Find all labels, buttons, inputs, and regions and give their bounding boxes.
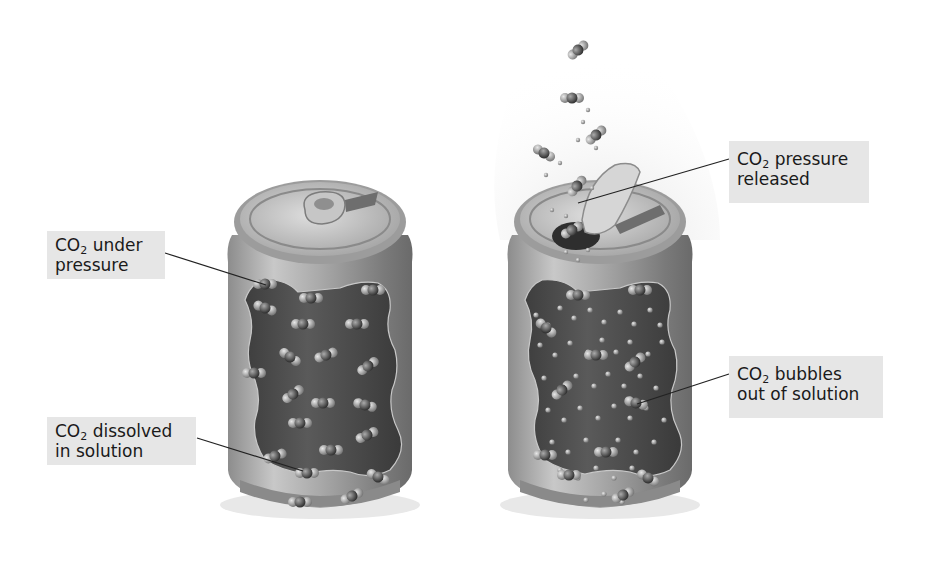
label-text: out of solution xyxy=(737,384,877,404)
label-text: pressure xyxy=(55,255,159,275)
label-text: bubbles xyxy=(769,364,842,384)
label-co2-dissolved: CO2 dissolved in solution xyxy=(47,417,196,465)
illustration xyxy=(0,0,933,582)
closed-can xyxy=(220,180,420,519)
label-co2-under-pressure: CO2 under pressure xyxy=(47,231,165,279)
label-text: CO xyxy=(737,364,762,384)
label-text: CO xyxy=(55,421,80,441)
label-text: CO xyxy=(55,235,80,255)
co2-solubility-figure: CO2 under pressure CO2 dissolved in solu… xyxy=(0,0,933,582)
label-text: released xyxy=(737,169,863,189)
label-co2-bubbles-out: CO2 bubbles out of solution xyxy=(729,356,883,418)
label-text: CO xyxy=(737,149,762,169)
label-text: in solution xyxy=(55,441,190,461)
open-can xyxy=(494,38,720,519)
label-text: under xyxy=(87,235,142,255)
label-text: pressure xyxy=(769,149,848,169)
label-text: dissolved xyxy=(87,421,172,441)
label-co2-pressure-released: CO2 pressure released xyxy=(729,141,869,203)
